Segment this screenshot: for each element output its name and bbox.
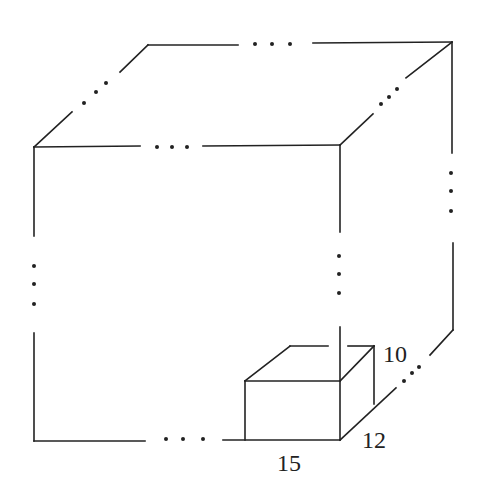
large-cube-front-bottom-edge [34,437,340,441]
large-cube-top-back-edge [148,42,452,46]
cube-diagram: 10 12 15 [0,0,483,492]
large-cube-front-right-edge [337,145,341,440]
large-cube-top-left-edge [34,45,148,147]
length-label: 15 [277,451,301,475]
cube-drawing [0,0,483,492]
large-cube-front-left-edge [32,147,36,441]
large-cube-front-top-edge [34,145,340,149]
width-label: 12 [362,428,386,452]
height-label: 10 [383,342,407,366]
large-cube-back-right-edge [449,42,453,330]
large-cube-top-right-edge [340,42,452,145]
